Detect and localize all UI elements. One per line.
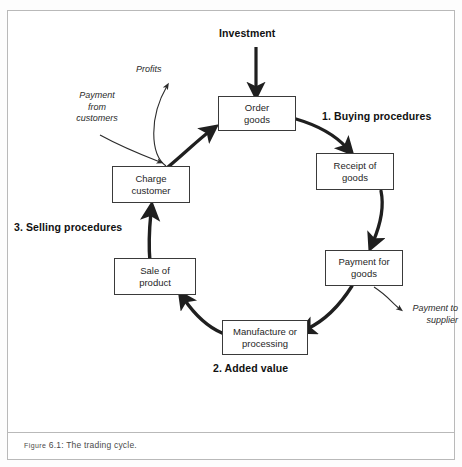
node-line-1: Charge: [135, 173, 166, 184]
node-line-2: customer: [131, 185, 170, 196]
label-line-2: from: [88, 102, 106, 112]
label-stage-1-buying-procedures: 1. Buying procedures: [322, 110, 431, 122]
node-line-2: product: [139, 277, 171, 288]
label-stage-3-selling-procedures: 3. Selling procedures: [14, 221, 122, 233]
figure-container: Order goods Receipt of goods Payment for…: [0, 0, 462, 467]
node-sale-of-product[interactable]: Sale of product: [114, 258, 196, 295]
node-sale-of-product-label: Sale of product: [139, 265, 171, 289]
caption-divider: [8, 432, 454, 433]
node-receipt-of-goods-label: Receipt of goods: [334, 160, 377, 184]
node-line-1: Order: [245, 102, 269, 113]
label-payment-to-supplier: Payment to supplier: [396, 303, 458, 326]
node-line-1: Manufacture or: [233, 326, 297, 337]
node-order-goods[interactable]: Order goods: [218, 96, 296, 131]
node-payment-for-goods-label: Payment for goods: [338, 256, 389, 280]
node-line-2: processing: [242, 338, 288, 349]
label-line-3: customers: [76, 113, 118, 123]
label-line-2: supplier: [426, 315, 458, 325]
node-line-2: goods: [351, 268, 377, 279]
caption-text: The trading cycle.: [66, 440, 137, 450]
figure-frame: [7, 10, 455, 460]
node-line-1: Payment for: [338, 256, 389, 267]
label-line-1: Payment: [79, 90, 115, 100]
figure-caption: Figure 6.1: The trading cycle.: [24, 440, 424, 450]
label-investment: Investment: [219, 27, 275, 39]
node-line-2: goods: [342, 172, 368, 183]
label-profits: Profits: [136, 64, 162, 76]
label-line-1: Payment to: [412, 303, 458, 313]
node-payment-for-goods[interactable]: Payment for goods: [325, 250, 403, 286]
caption-prefix: Figure: [24, 442, 46, 449]
node-line-2: goods: [244, 114, 270, 125]
node-manufacture-label: Manufacture or processing: [233, 326, 297, 350]
node-charge-customer[interactable]: Charge customer: [112, 166, 190, 203]
caption-number: 6.1:: [46, 440, 66, 450]
label-payment-from-customers: Payment from customers: [66, 90, 128, 125]
node-receipt-of-goods[interactable]: Receipt of goods: [316, 153, 394, 190]
node-charge-customer-label: Charge customer: [131, 173, 170, 197]
node-line-1: Receipt of: [334, 160, 377, 171]
label-stage-2-added-value: 2. Added value: [213, 362, 288, 374]
node-manufacture-or-processing[interactable]: Manufacture or processing: [222, 320, 308, 355]
node-order-goods-label: Order goods: [244, 102, 270, 126]
node-line-1: Sale of: [140, 265, 170, 276]
